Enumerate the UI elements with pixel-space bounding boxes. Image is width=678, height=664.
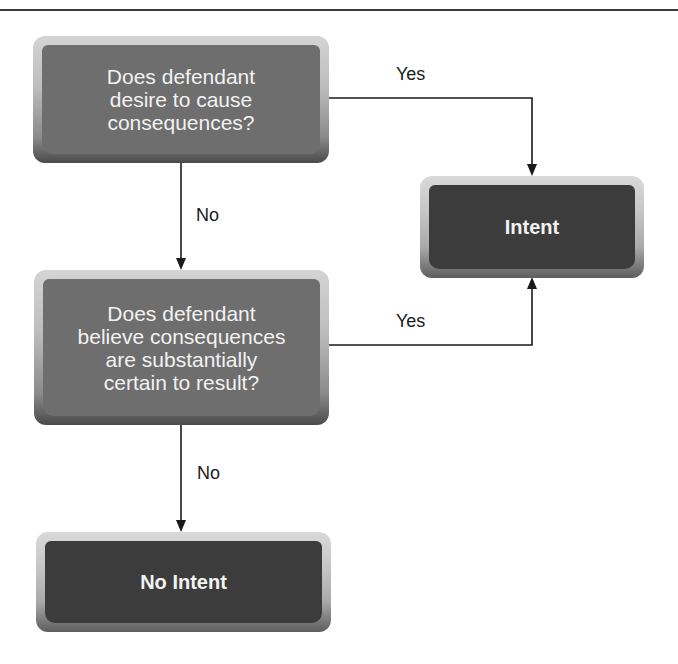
arrowhead-icon: [176, 258, 186, 270]
decision-node-belief-text: Does defendant believe consequences are …: [78, 302, 286, 394]
decision-node-belief: Does defendant believe consequences are …: [34, 270, 329, 425]
arrowhead-icon: [527, 277, 537, 289]
edge-q2-yes-intent: [329, 286, 532, 345]
outcome-node-intent-text: Intent: [505, 216, 559, 239]
outcome-node-intent: Intent: [420, 176, 644, 278]
decision-node-desire-body: Does defendant desire to cause consequen…: [42, 45, 320, 154]
arrowhead-icon: [527, 164, 537, 176]
edge-q1-yes-intent: [329, 98, 532, 172]
decision-node-desire: Does defendant desire to cause consequen…: [33, 36, 329, 163]
arrowhead-icon: [176, 520, 186, 532]
outcome-node-no-intent-text: No Intent: [140, 571, 227, 594]
edge-label-q2-no: No: [197, 463, 220, 484]
edge-label-q2-yes: Yes: [396, 311, 425, 332]
outcome-node-no-intent: No Intent: [36, 532, 331, 632]
edge-label-q1-no: No: [196, 205, 219, 226]
outcome-node-intent-body: Intent: [429, 185, 635, 269]
outcome-node-no-intent-body: No Intent: [45, 541, 322, 623]
edge-label-q1-yes: Yes: [396, 64, 425, 85]
decision-node-belief-body: Does defendant believe consequences are …: [43, 279, 320, 416]
decision-node-desire-text: Does defendant desire to cause consequen…: [107, 65, 255, 134]
